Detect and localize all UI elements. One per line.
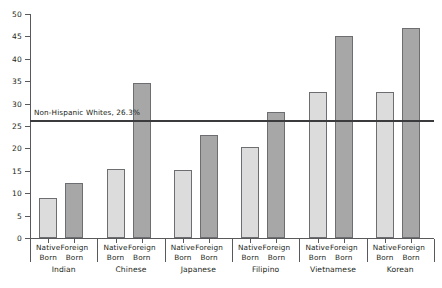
- group-label-chinese: Chinese: [97, 265, 164, 274]
- bar-filipino-foreign-born: [267, 112, 285, 238]
- x-sublabel-line2: Born: [124, 253, 159, 263]
- y-tick-label: 0: [17, 235, 22, 243]
- y-tick-label: 30: [12, 100, 22, 108]
- bar-japanese-foreign-born: [200, 135, 218, 238]
- bar-japanese-native-born: [174, 170, 192, 238]
- x-sublabel-line1: Foreign: [326, 243, 361, 253]
- y-tick-label: 10: [12, 190, 22, 198]
- y-tick-label: 35: [12, 78, 22, 86]
- y-tick-label: 50: [12, 11, 22, 19]
- group-label-indian: Indian: [30, 265, 97, 274]
- x-sublabel-line1: Foreign: [259, 243, 294, 253]
- bar-vietnamese-foreign-born: [335, 36, 353, 238]
- bar-korean-native-born: [376, 92, 394, 238]
- x-axis-labels: NativeBornForeignBornIndianNativeBornFor…: [30, 239, 434, 288]
- x-sublabel: ForeignBorn: [192, 243, 227, 262]
- plot-area: 05101520253035404550 Non-Hispanic Whites…: [30, 14, 434, 238]
- x-sublabel-line1: Foreign: [57, 243, 92, 253]
- x-sublabel-line2: Born: [192, 253, 227, 263]
- bar-chinese-native-born: [107, 169, 125, 238]
- x-sublabel-line1: Foreign: [394, 243, 429, 253]
- y-tick-label: 15: [12, 167, 22, 175]
- bar-indian-foreign-born: [65, 183, 83, 238]
- bar-vietnamese-native-born: [309, 92, 327, 238]
- x-sublabel: ForeignBorn: [124, 243, 159, 262]
- group-label-japanese: Japanese: [165, 265, 232, 274]
- x-sublabel-line2: Born: [57, 253, 92, 263]
- group-separator: [434, 239, 435, 262]
- bar-korean-foreign-born: [402, 28, 420, 238]
- group-label-filipino: Filipino: [232, 265, 299, 274]
- x-sublabel-line1: Foreign: [192, 243, 227, 253]
- x-sublabel: ForeignBorn: [326, 243, 361, 262]
- x-sublabel: ForeignBorn: [259, 243, 294, 262]
- x-sublabel-line2: Born: [326, 253, 361, 263]
- x-sublabel-line1: Foreign: [124, 243, 159, 253]
- group-label-vietnamese: Vietnamese: [299, 265, 366, 274]
- reference-line-label: Non-Hispanic Whites, 26.3%: [34, 109, 140, 117]
- y-tick-label: 40: [12, 55, 22, 63]
- bar-indian-native-born: [39, 198, 57, 238]
- bar-filipino-native-born: [241, 147, 259, 238]
- bar-chart: 05101520253035404550 Non-Hispanic Whites…: [0, 0, 442, 288]
- group-label-korean: Korean: [367, 265, 434, 274]
- x-sublabel: ForeignBorn: [394, 243, 429, 262]
- x-sublabel-line2: Born: [394, 253, 429, 263]
- y-tick-label: 45: [12, 33, 22, 41]
- y-tick-label: 25: [12, 123, 22, 131]
- y-tick-label: 20: [12, 145, 22, 153]
- reference-line: [30, 120, 434, 121]
- x-sublabel: ForeignBorn: [57, 243, 92, 262]
- bar-series-container: [30, 14, 434, 238]
- y-tick-label: 5: [17, 212, 22, 220]
- bar-chinese-foreign-born: [133, 83, 151, 238]
- x-sublabel-line2: Born: [259, 253, 294, 263]
